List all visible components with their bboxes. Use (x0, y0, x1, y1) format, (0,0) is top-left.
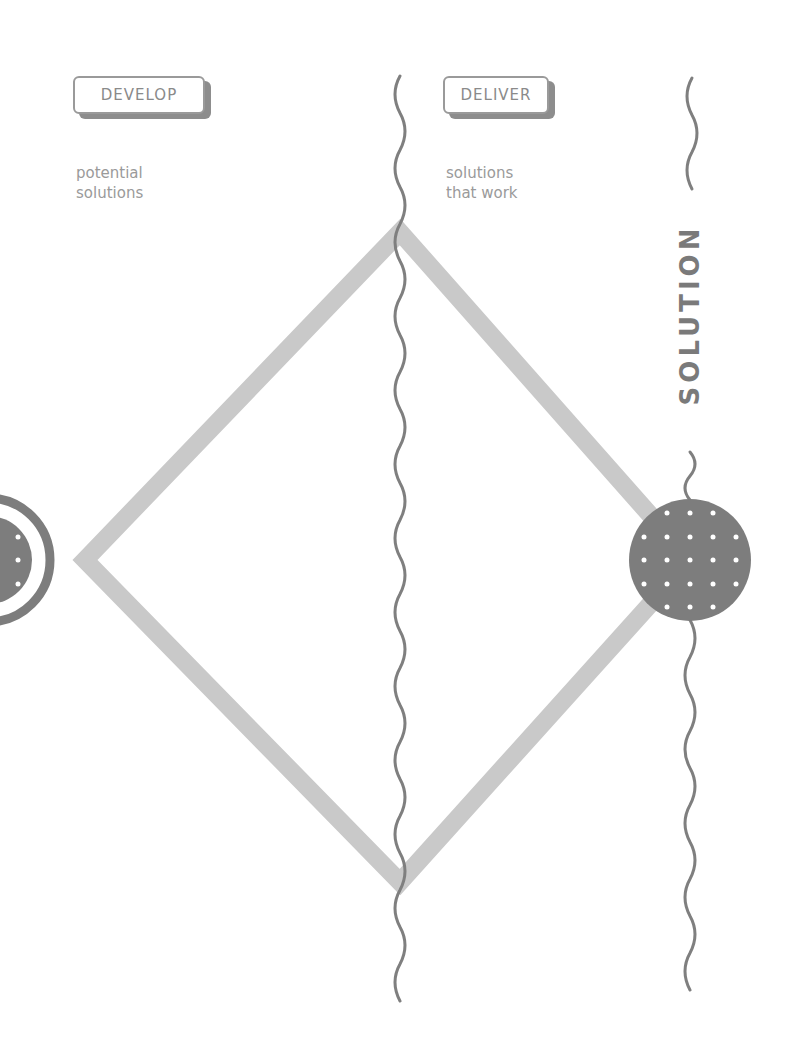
solution-dotted-circle (629, 499, 751, 621)
diamond-shape (85, 232, 690, 882)
solution-label: SOLUTION (675, 225, 705, 406)
problem-circle-partial (0, 498, 50, 622)
deliver-description-line-1: solutions (446, 163, 518, 183)
double-diamond-diagram: DEVELOP potential solutions DELIVER solu… (0, 0, 800, 1050)
develop-description-line-1: potential (76, 163, 143, 183)
deliver-description: solutions that work (446, 163, 518, 203)
deliver-description-line-2: that work (446, 183, 518, 203)
wavy-divider-right-middle (685, 452, 695, 500)
wavy-divider-right-bottom (685, 620, 695, 990)
develop-description: potential solutions (76, 163, 143, 203)
develop-description-line-2: solutions (76, 183, 143, 203)
develop-phase-label: DEVELOP (73, 76, 205, 114)
wavy-divider-right-top (687, 78, 697, 189)
develop-label-text: DEVELOP (101, 86, 177, 104)
diagram-graphics (0, 0, 800, 1050)
deliver-phase-label: DELIVER (443, 76, 549, 114)
wavy-divider-center (395, 76, 405, 1001)
deliver-label-text: DELIVER (461, 86, 532, 104)
